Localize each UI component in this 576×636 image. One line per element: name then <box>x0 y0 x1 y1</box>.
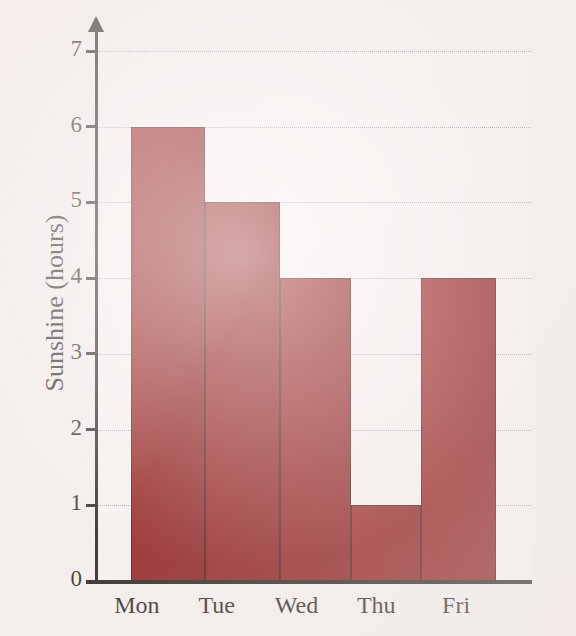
bar-tue-fill <box>206 203 279 581</box>
bars-layer <box>131 51 496 581</box>
bar-wed-fill <box>281 279 350 581</box>
x-tick-label-fri: Fri <box>416 592 496 618</box>
y-tick-2 <box>86 428 98 431</box>
y-tick-label-7: 7 <box>56 37 82 60</box>
bar-tue[interactable] <box>205 202 280 581</box>
y-tick-6 <box>86 125 98 128</box>
y-tick-7 <box>86 50 98 53</box>
y-tick-label-1: 1 <box>56 491 82 514</box>
y-axis-arrow-icon <box>88 16 104 32</box>
y-tick-5 <box>86 201 98 204</box>
bar-chart-figure: 7 6 5 4 3 2 1 0 Mon Tue Wed Thu Fri Suns… <box>0 0 576 636</box>
bar-mon-fill <box>132 128 204 581</box>
bar-mon[interactable] <box>131 127 205 581</box>
y-tick-4 <box>86 277 98 280</box>
bar-fri-fill <box>422 279 495 581</box>
bar-fri[interactable] <box>421 278 496 581</box>
y-tick-3 <box>86 352 98 355</box>
bar-thu[interactable] <box>351 505 421 581</box>
x-tick-labels: Mon Tue Wed Thu Fri <box>97 592 496 618</box>
x-tick-label-wed: Wed <box>257 592 337 618</box>
y-tick-label-0: 0 <box>56 567 82 590</box>
x-axis-line <box>86 580 532 584</box>
x-tick-label-thu: Thu <box>336 592 416 618</box>
y-tick-label-6: 6 <box>56 113 82 136</box>
bar-thu-fill <box>352 506 420 581</box>
x-tick-label-mon: Mon <box>97 592 177 618</box>
x-tick-label-tue: Tue <box>177 592 257 618</box>
y-axis-title: Sunshine (hours) <box>40 153 70 453</box>
y-tick-1 <box>86 504 98 507</box>
y-axis-line <box>95 28 98 583</box>
bar-wed[interactable] <box>280 278 351 581</box>
